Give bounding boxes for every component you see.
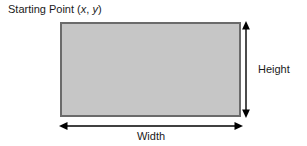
starting-point-prefix-text: Starting Point ( [8,3,81,15]
starting-point-suffix-text: ) [98,3,102,15]
starting-point-label: Starting Point (x, y) [8,3,102,16]
height-label: Height [258,63,290,76]
rectangle-shape [61,23,240,116]
width-dimension-arrow [59,122,243,130]
width-arrowhead-left [59,122,68,130]
width-label: Width [0,130,302,143]
width-arrowhead-right [235,122,244,130]
height-arrowhead-bottom [242,110,250,119]
height-dimension-arrow [242,21,250,118]
height-arrowhead-top [242,21,250,30]
diagram-canvas: Starting Point (x, y) Height Width [0,0,307,146]
